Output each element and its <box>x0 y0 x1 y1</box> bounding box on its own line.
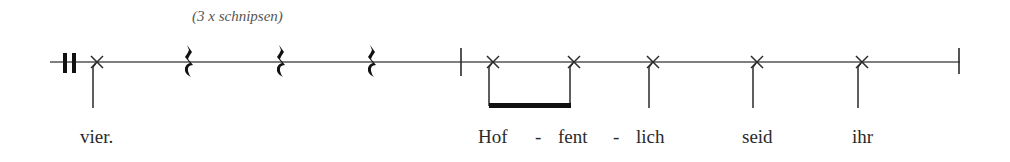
x-notehead-icon <box>91 56 103 108</box>
beam-bar <box>489 103 571 108</box>
repeat-sign-icon <box>63 53 76 73</box>
quarter-rests <box>185 45 376 77</box>
annotation-snap-fingers: (3 x schnipsen) <box>192 9 283 24</box>
repeat-bar <box>72 53 76 73</box>
x-notehead-icon <box>568 56 580 106</box>
x-notes <box>91 56 868 108</box>
lyric-syllable: seid <box>742 127 773 146</box>
x-notehead-icon <box>487 56 499 106</box>
repeat-bar <box>63 53 67 73</box>
x-notehead-icon <box>751 56 763 108</box>
lyric-syllable: vier. <box>80 127 113 146</box>
quarter-rest-icon <box>277 45 285 77</box>
lyric-syllable: lich <box>636 127 665 146</box>
lyric-hyphen: - <box>535 127 541 146</box>
lyric-hyphen: - <box>613 127 619 146</box>
lyric-syllable: fent <box>558 127 588 146</box>
beam <box>489 103 571 108</box>
x-notehead-icon <box>856 56 868 108</box>
quarter-rest-icon <box>185 45 193 77</box>
lyric-syllable: ihr <box>852 127 873 146</box>
lyric-syllable: Hof <box>478 127 508 146</box>
x-notehead-icon <box>647 56 659 108</box>
quarter-rest-icon <box>368 45 376 77</box>
